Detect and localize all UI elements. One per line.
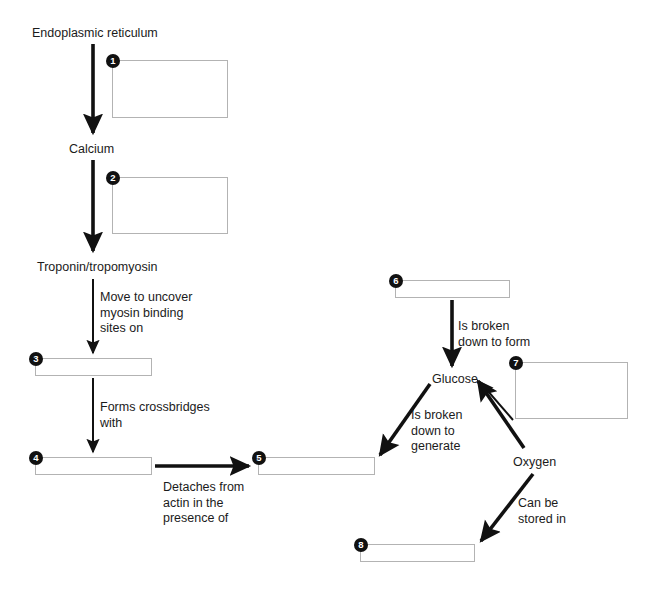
box-marker-6: 6 <box>389 274 403 288</box>
arrow-box7-to-glucose <box>480 382 513 420</box>
box-marker-8: 8 <box>354 538 368 552</box>
box-marker-2: 2 <box>106 171 120 185</box>
answer-box-3[interactable] <box>35 358 152 376</box>
answer-box-1[interactable] <box>112 60 228 118</box>
answer-box-4[interactable] <box>35 457 152 475</box>
edge-label-move-to-uncover: Move to uncover myosin binding sites on <box>100 290 192 337</box>
answer-box-6[interactable] <box>395 280 510 298</box>
box-marker-3: 3 <box>29 352 43 366</box>
node-label-endoplasmic-reticulum: Endoplasmic reticulum <box>32 26 158 40</box>
node-label-glucose: Glucose <box>432 372 478 386</box>
edge-label-forms-crossbridges: Forms crossbridges with <box>100 400 210 431</box>
answer-box-2[interactable] <box>112 177 228 234</box>
edge-label-is-broken-down-to-generate: Is broken down to generate <box>411 408 462 455</box>
edge-label-can-be-stored-in: Can be stored in <box>518 496 566 527</box>
answer-box-8[interactable] <box>360 544 475 562</box>
box-marker-7: 7 <box>509 356 523 370</box>
edge-label-detaches-from-actin: Detaches from actin in the presence of <box>163 480 244 527</box>
node-label-troponin-tropomyosin: Troponin/tropomyosin <box>37 260 157 274</box>
concept-map-diagram: Endoplasmic reticulumCalciumTroponin/tro… <box>0 0 656 590</box>
edge-label-is-broken-down-to-form: Is broken down to form <box>458 319 530 350</box>
box-marker-1: 1 <box>106 54 120 68</box>
box-marker-5: 5 <box>252 451 266 465</box>
answer-box-7[interactable] <box>515 362 628 419</box>
node-label-calcium: Calcium <box>69 142 114 156</box>
box-marker-4: 4 <box>29 451 43 465</box>
answer-box-5[interactable] <box>258 457 375 475</box>
node-label-oxygen: Oxygen <box>513 455 556 469</box>
